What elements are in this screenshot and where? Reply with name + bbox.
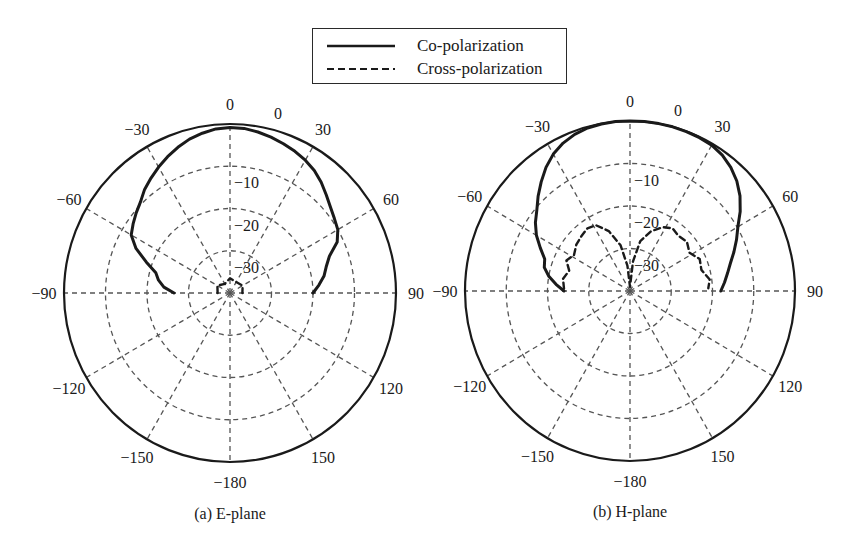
radial-tick-label: −20	[234, 217, 259, 234]
angular-tick-label: −60	[56, 191, 81, 208]
angular-tick-label: −90	[432, 283, 457, 300]
radial-tick-label: −30	[234, 259, 259, 276]
angular-tick-label: −120	[52, 380, 85, 397]
grid-spoke	[147, 147, 230, 293]
angular-tick-label: −60	[457, 188, 482, 205]
angular-tick-label: −150	[120, 449, 153, 466]
plot-caption: (b) H-plane	[593, 503, 667, 521]
angular-tick-label: 60	[383, 191, 399, 208]
grid-spoke	[630, 291, 713, 438]
angular-tick-label: 90	[408, 285, 424, 302]
grid-spoke	[548, 144, 631, 291]
radial-tick-label: −20	[634, 214, 659, 231]
grid-spoke	[230, 293, 313, 439]
plot-caption: (a) E-plane	[194, 505, 266, 523]
h-plane-polar-plot: 0306090120150−180−150−120−90−60−300−10−2…	[432, 93, 823, 521]
angular-tick-label: 60	[782, 188, 798, 205]
grid-spoke	[230, 293, 374, 378]
angular-tick-label: −30	[124, 121, 149, 138]
angular-tick-label: 90	[807, 283, 823, 300]
grid-spoke	[487, 206, 630, 291]
polar-charts: 0306090120150−180−150−120−90−60−300−10−2…	[0, 0, 841, 534]
radial-tick-label: 0	[274, 105, 282, 122]
angular-tick-label: 120	[379, 380, 403, 397]
radial-tick-label: −30	[634, 257, 659, 274]
angular-tick-label: −150	[521, 448, 554, 465]
e-plane-polar-plot: 0306090120150−180−150−120−90−60−300−10−2…	[31, 96, 424, 523]
grid-spoke	[548, 291, 631, 438]
grid-spoke	[147, 293, 230, 439]
grid-spoke	[630, 291, 773, 376]
angular-tick-label: 0	[226, 96, 234, 113]
angular-tick-label: −120	[453, 378, 486, 395]
angular-tick-label: −90	[31, 285, 56, 302]
angular-tick-label: 30	[315, 121, 331, 138]
angular-tick-label: 150	[711, 448, 735, 465]
angular-tick-label: 30	[715, 118, 731, 135]
angular-tick-label: 120	[778, 378, 802, 395]
radial-tick-label: 0	[674, 102, 682, 119]
grid-spoke	[86, 293, 230, 378]
angular-tick-label: −180	[613, 473, 646, 490]
radial-tick-label: −10	[234, 174, 259, 191]
angular-tick-label: −30	[525, 118, 550, 135]
radial-tick-label: −10	[634, 172, 659, 189]
angular-tick-label: −180	[213, 474, 246, 491]
angular-tick-label: 0	[626, 93, 634, 110]
angular-tick-label: 150	[311, 449, 335, 466]
grid-spoke	[487, 291, 630, 376]
